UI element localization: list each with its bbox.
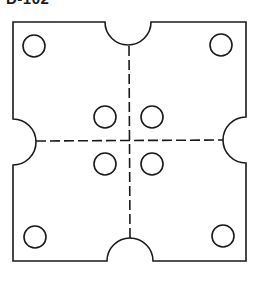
hole-bottom-right xyxy=(212,225,234,247)
plate-drawing xyxy=(0,0,257,281)
hole-center-upper-left xyxy=(94,106,116,128)
hole-center-lower-right xyxy=(141,153,163,175)
vertical-centerline xyxy=(129,46,130,238)
hole-bottom-left xyxy=(24,226,46,248)
hole-center-upper-right xyxy=(141,106,163,128)
plate-outline xyxy=(13,22,246,261)
hole-center-lower-left xyxy=(94,153,116,175)
horizontal-centerline xyxy=(36,140,223,141)
hole-top-left xyxy=(23,35,45,57)
hole-top-right xyxy=(210,34,232,56)
